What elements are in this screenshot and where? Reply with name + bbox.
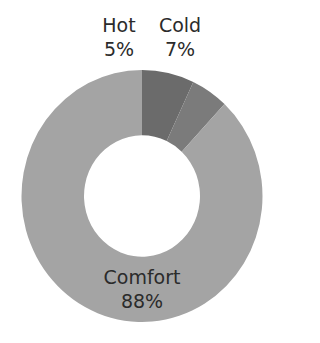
hot-label: Hot 5% — [102, 13, 135, 61]
comfort-label-name: Comfort — [104, 265, 181, 289]
comfort-label-value: 88% — [104, 289, 181, 313]
comfort-label: Comfort 88% — [104, 265, 181, 313]
hot-label-name: Hot — [102, 13, 135, 37]
cold-label-name: Cold — [159, 13, 201, 37]
hot-label-value: 5% — [102, 37, 135, 61]
cold-label-value: 7% — [159, 37, 201, 61]
cold-label: Cold 7% — [159, 13, 201, 61]
